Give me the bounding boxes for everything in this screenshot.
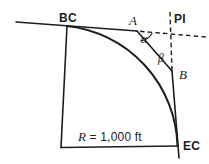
alpha-angle-label: α [141, 33, 148, 45]
ec-label: EC [183, 139, 200, 153]
horizontal-curve-diagram: BC A PI α β B R = 1,000 ft EC [0, 0, 209, 164]
point-a-label: A [128, 13, 137, 28]
forward-tangent-dashed [170, 12, 172, 71]
point-b-label: B [179, 67, 187, 82]
radius-line-ec [61, 146, 178, 148]
circular-curve-arc [67, 26, 178, 146]
radius-value-label: = 1,000 ft [90, 130, 143, 144]
radius-line-bc [61, 26, 67, 148]
bc-label: BC [59, 11, 77, 25]
radius-symbol-label: R [77, 129, 86, 144]
pi-label: PI [174, 12, 186, 26]
curve-geometry-figure: BC A PI α β B R = 1,000 ft EC [0, 0, 209, 164]
beta-angle-label: β [157, 52, 164, 65]
